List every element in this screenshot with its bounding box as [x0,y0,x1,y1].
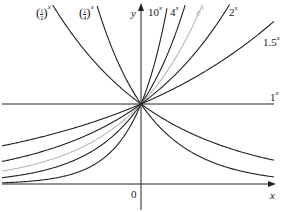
base: 10 [148,6,159,18]
y-axis-arrow-icon [138,3,144,11]
label-half-pow-x: (12)x [36,6,51,21]
origin-label: 0 [131,189,137,200]
x-axis-label-text: x [270,189,275,201]
x-axis-label: x [270,190,275,201]
base: 2 [229,6,235,18]
y-axis-label-text: y [131,7,136,19]
label-1.5-pow-x: 1.5x [263,37,280,48]
curve-1.5-x [2,21,274,146]
exponent: x [277,34,280,42]
exponent: x [201,4,204,12]
curves-group [2,5,274,183]
exponent: x [235,4,238,12]
label-e-pow-x: ex [196,7,204,18]
y-axis-label: y [131,8,136,19]
exponent: x [91,3,94,11]
label-2-pow-x: 2x [229,7,238,18]
plot-area [0,0,284,212]
label-4-pow-x: 4x [170,7,179,18]
curve-e-x [2,5,202,172]
base: 1 [270,91,276,103]
origin-text: 0 [131,188,137,200]
label-10-pow-x: 10x [148,7,162,18]
x-axis-arrow-icon [268,181,276,187]
exponent: x [159,4,162,12]
curve--1-4-x [97,6,274,177]
exponent: x [176,4,179,12]
exponential-functions-chart: (12)x (14)x y 10x 4x ex 2x 1.5x 1x 0 x [0,0,284,212]
base: 1.5 [263,36,277,48]
exponent: x [48,3,51,11]
base: 4 [170,6,176,18]
label-quarter-pow-x: (14)x [79,6,94,21]
exponent: x [276,89,279,97]
curve-10-x [2,8,167,183]
label-1-pow-x: 1x [270,92,279,103]
